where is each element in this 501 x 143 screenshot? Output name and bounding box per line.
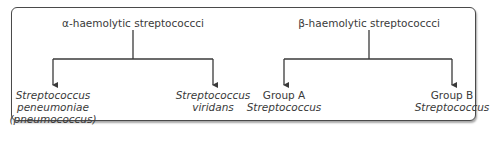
beta-title: β-haemolytic streptococcci: [296, 17, 442, 29]
node-line: Group B: [406, 89, 498, 101]
node-line: peneumoniae: [3, 101, 103, 113]
node-line: Group A: [238, 89, 330, 101]
node-line: Streptococcus: [238, 101, 330, 113]
node-line: Streptococcus: [3, 89, 103, 101]
node-line: (pneumococcus): [3, 113, 103, 125]
alpha-title: α-haemolytic streptococcci: [60, 17, 206, 29]
node-line: Streptococcus: [406, 101, 498, 113]
